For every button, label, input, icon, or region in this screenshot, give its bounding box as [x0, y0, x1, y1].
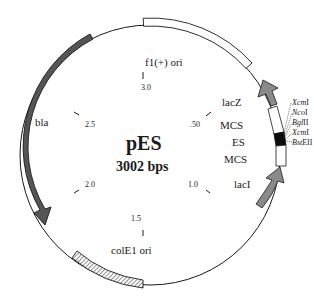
restriction-site-bsteii: BstEII	[292, 139, 312, 147]
mcs-upper-segment	[268, 106, 284, 134]
tick-label-1.0: 1.0	[188, 181, 198, 189]
tick-label-2.0: 2.0	[85, 181, 95, 189]
feature-label-mcs-top: MCS	[220, 120, 243, 131]
bla-arrow	[23, 34, 93, 225]
plasmid-name: pES	[126, 133, 162, 153]
restriction-site-xcmi-2: XcmI	[292, 129, 309, 137]
cole1-ori-segment	[72, 251, 143, 288]
mcs-lower-segment	[276, 145, 286, 166]
restriction-site-ncoi: NcoI	[292, 109, 308, 117]
lacz-arrow	[258, 80, 278, 106]
feature-label-bla: bla	[35, 117, 48, 128]
feature-label-f1-ori: f1(+) ori	[145, 57, 183, 68]
feature-label-cole1-ori: colE1 ori	[111, 245, 152, 256]
restriction-site-bglii: BglII	[292, 119, 308, 127]
plasmid-size: 3002 bps	[116, 160, 169, 174]
feature-label-es: ES	[232, 137, 245, 148]
tick-label-1.5: 1.5	[131, 215, 141, 223]
laci-arrow	[256, 167, 284, 208]
restriction-site-xcmi-1: XcmI	[292, 99, 309, 107]
feature-label-mcs-bottom: MCS	[224, 154, 247, 165]
tick-label-3.0: 3.0	[141, 84, 151, 92]
tick-mark-0.5	[206, 112, 211, 116]
tick-mark-2.5	[74, 112, 79, 115]
tick-label-2.5: 2.5	[85, 121, 95, 129]
tick-mark-1.0	[206, 190, 210, 193]
tick-mark-2.0	[74, 190, 79, 193]
feature-label-lacz: lacZ	[222, 97, 242, 108]
feature-label-laci: lacI	[234, 179, 250, 190]
tick-label-0.5: .50	[190, 121, 200, 129]
